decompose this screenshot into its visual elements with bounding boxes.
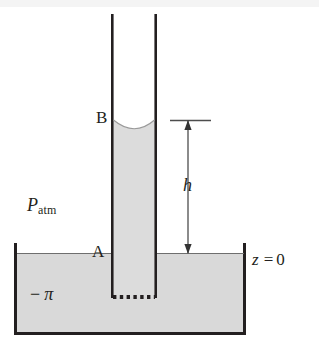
capillary-rise-figure: B A h Patm −π z=0	[0, 0, 319, 347]
label-datum-variable: z	[252, 250, 259, 269]
label-pi-symbol: π	[40, 284, 53, 304]
label-point-b: B	[96, 109, 107, 126]
height-arrowhead-up-icon	[184, 120, 191, 130]
label-point-a: A	[92, 243, 104, 260]
label-datum-value: 0	[276, 250, 285, 269]
tube-liquid-column	[114, 120, 155, 297]
label-atmospheric-pressure-subscript: atm	[38, 203, 57, 217]
label-minus-sign: −	[30, 284, 40, 304]
reservoir-liquid-under-tube	[112, 297, 156, 333]
label-atmospheric-pressure-symbol: P	[27, 195, 38, 215]
label-height-h: h	[183, 176, 192, 194]
height-arrowhead-down-icon	[184, 244, 191, 254]
label-datum-equals-sign: =	[259, 250, 277, 269]
tube-liquid-column-group	[114, 120, 155, 297]
label-atmospheric-pressure: Patm	[27, 196, 57, 214]
label-datum-z-equals-zero: z=0	[252, 251, 285, 268]
reservoir-liquid-right	[156, 253, 244, 333]
label-minus-pi: −π	[30, 285, 53, 303]
